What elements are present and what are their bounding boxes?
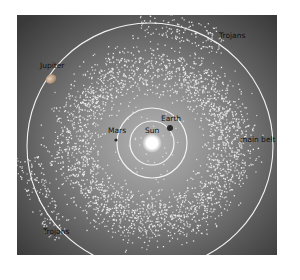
mars-icon bbox=[114, 138, 117, 141]
label-trojans-top: Trojans bbox=[218, 31, 245, 40]
label-main-belt: main belt bbox=[240, 135, 276, 144]
earth-icon bbox=[167, 125, 173, 131]
label-mars: Mars bbox=[108, 126, 126, 135]
asteroid-belt-diagram: Jupiter Trojans Trojans Earth Mars Sun m… bbox=[0, 0, 300, 280]
label-trojans-bottom: Trojans bbox=[42, 227, 69, 236]
label-earth: Earth bbox=[161, 114, 181, 123]
label-sun: Sun bbox=[145, 126, 160, 135]
label-jupiter: Jupiter bbox=[39, 61, 65, 70]
sun-icon bbox=[147, 138, 158, 149]
